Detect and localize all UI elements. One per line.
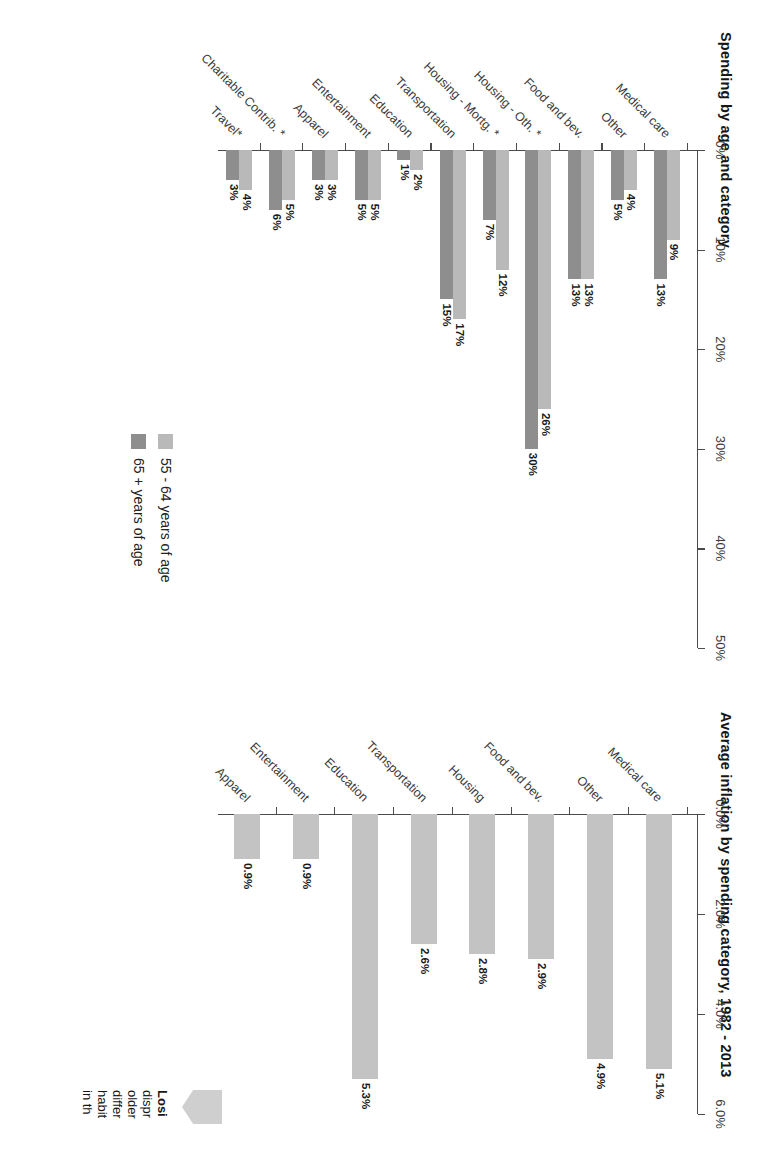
bar-value-label: 5% [369, 204, 381, 221]
category-label: Apparel [213, 765, 253, 805]
bar [282, 150, 295, 200]
value-tick-label: 50% [713, 635, 728, 661]
category-label: Medical care [605, 745, 665, 805]
bar-value-label: 30% [527, 453, 539, 476]
category-label: Housing - Mortg. * [421, 60, 502, 141]
category-label: Charitable Contrib. * [199, 51, 288, 140]
legend-swatch-icon [132, 434, 147, 449]
category-tick [334, 807, 335, 814]
value-tick-label: 6.0% [713, 1099, 728, 1129]
callout-badge-icon [182, 1090, 222, 1124]
category-label: Food and bev. [481, 739, 547, 805]
bar [624, 150, 637, 190]
bar-value-label: 2.8% [477, 958, 489, 984]
category-tick [388, 143, 389, 150]
bar [453, 150, 466, 319]
bar-value-label: 6% [271, 214, 283, 231]
category-label: Apparel [290, 101, 330, 141]
chart-average-inflation: Average inflation by spending category, … [74, 710, 734, 1140]
bar-value-label: 17% [455, 323, 467, 346]
value-axis [697, 150, 698, 648]
legend-swatch-icon [159, 434, 174, 449]
bar [293, 814, 319, 859]
value-tick [698, 150, 705, 151]
chart1-plot-area: 0%10%20%30%40%50%Medical care9%13%Other4… [218, 150, 688, 648]
bar-value-label: 1% [399, 164, 411, 181]
bar-value-label: 3% [313, 184, 325, 201]
value-tick [698, 814, 705, 815]
category-tick [687, 807, 688, 814]
value-tick [698, 349, 705, 350]
bar [312, 150, 325, 180]
bar-value-label: 5% [356, 204, 368, 221]
value-tick [698, 1114, 705, 1115]
bar-value-label: 3% [228, 184, 240, 201]
bar-value-label: 5.1% [654, 1073, 666, 1099]
value-tick [698, 648, 705, 649]
category-tick [393, 807, 394, 814]
category-tick [601, 143, 602, 150]
category-tick [687, 143, 688, 150]
legend-label: 55 - 64 years of age [158, 458, 174, 583]
category-label: Housing [446, 763, 488, 805]
bar [469, 814, 495, 954]
bar-value-label: 5% [612, 204, 624, 221]
bar-value-label: 2.6% [419, 948, 431, 974]
bar [587, 814, 613, 1059]
bar [538, 150, 551, 409]
legend-label: 65 + years of age [131, 458, 147, 567]
value-tick [698, 914, 705, 915]
callout-line-3: differ [110, 1090, 125, 1119]
bar-value-label: 15% [442, 303, 454, 326]
bar [226, 150, 239, 180]
bar-value-label: 5% [284, 204, 296, 221]
callout-line-5: in th [80, 1090, 95, 1115]
bar-value-label: 5.3% [360, 1083, 372, 1109]
value-tick [698, 250, 705, 251]
bar-value-label: 3% [326, 184, 338, 201]
bar [611, 150, 624, 200]
category-tick [452, 807, 453, 814]
bar [496, 150, 509, 270]
bar [352, 814, 378, 1079]
value-tick [698, 548, 705, 549]
chart2-plot-area: 0.0%2.0%4.0%6.0%Medical care5.1%Other4.9… [218, 814, 688, 1114]
bar [667, 150, 680, 240]
bar-value-label: 2.9% [536, 963, 548, 989]
bar-value-label: 13% [655, 283, 667, 306]
bar [654, 150, 667, 279]
value-tick-label: 0% [713, 141, 728, 160]
bar [355, 150, 368, 200]
bar [397, 150, 410, 160]
category-tick [516, 143, 517, 150]
bar [525, 150, 538, 449]
callout-text: Losi dispr older differ habit in th [80, 1090, 170, 1168]
category-label: Education [322, 756, 371, 805]
category-tick [569, 807, 570, 814]
value-tick-label: 10% [713, 237, 728, 263]
category-tick [302, 143, 303, 150]
category-tick [473, 143, 474, 150]
bar [483, 150, 496, 220]
value-tick-label: 2.0% [713, 899, 728, 929]
value-axis [697, 814, 698, 1114]
value-tick-label: 4.0% [713, 999, 728, 1029]
callout-line-1: dispr [140, 1090, 155, 1118]
callout-heading: Losi [155, 1090, 170, 1117]
bar-value-label: 4% [625, 194, 637, 211]
scanned-page: Spending by age and category 0%10%20%30%… [0, 0, 762, 1168]
callout-block: Losi dispr older differ habit in th [80, 1090, 222, 1168]
bar [239, 150, 252, 190]
bar [269, 150, 282, 210]
bar-value-label: 13% [570, 283, 582, 306]
category-tick [511, 807, 512, 814]
category-tick [345, 143, 346, 150]
callout-line-4: habit [95, 1090, 110, 1118]
chart1-legend: 55 - 64 years of age 65 + years of age [120, 434, 174, 583]
category-label: Transportation [363, 738, 430, 805]
bar-value-label: 4.9% [595, 1063, 607, 1089]
bar-value-label: 0.9% [301, 863, 313, 889]
legend-item-65-plus: 65 + years of age [131, 434, 147, 583]
bar [410, 150, 423, 170]
bar-value-label: 4% [241, 194, 253, 211]
